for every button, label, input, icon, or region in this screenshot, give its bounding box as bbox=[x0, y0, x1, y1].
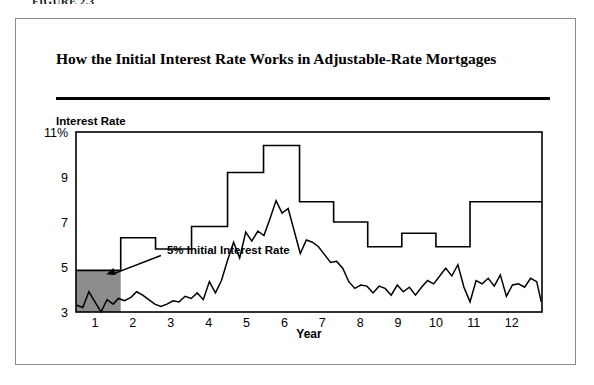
figure-caption: FIGURE 2.3 bbox=[32, 0, 94, 4]
figure-frame: How the Initial Interest Rate Works in A… bbox=[15, 18, 576, 365]
figure-title: How the Initial Interest Rate Works in A… bbox=[56, 49, 536, 68]
title-divider-rule bbox=[56, 97, 550, 100]
y-axis-title: Interest Rate bbox=[56, 115, 126, 127]
